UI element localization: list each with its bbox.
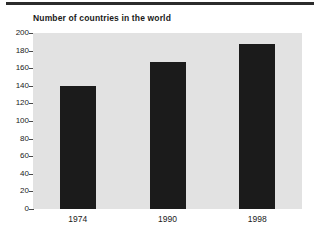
bar <box>150 62 186 209</box>
y-tick-label: 0 <box>3 205 29 213</box>
y-tick-label: 200 <box>3 29 29 37</box>
bar <box>60 86 96 209</box>
bar <box>239 44 275 209</box>
y-tick-label: 40 <box>3 170 29 178</box>
y-tick-label: 180 <box>3 47 29 55</box>
y-tick-label: 80 <box>3 135 29 143</box>
plot-area <box>33 33 302 209</box>
y-tick-label: 60 <box>3 152 29 160</box>
x-tick-label: 1974 <box>68 214 87 224</box>
x-tick-label: 1990 <box>158 214 177 224</box>
top-divider-rule <box>6 2 314 5</box>
y-tick-label: 100 <box>3 117 29 125</box>
bars-layer <box>33 33 302 209</box>
y-tick-label: 140 <box>3 82 29 90</box>
chart-figure: Number of countries in the world 0204060… <box>0 0 320 239</box>
y-tick-label: 160 <box>3 64 29 72</box>
x-tick-label: 1998 <box>248 214 267 224</box>
x-axis-labels: 197419901998 <box>33 214 302 228</box>
y-axis-labels: 020406080100120140160180200 <box>0 33 29 209</box>
y-tick-label: 120 <box>3 99 29 107</box>
y-tick-label: 20 <box>3 187 29 195</box>
chart-title: Number of countries in the world <box>33 13 171 23</box>
y-tick-mark <box>29 209 34 210</box>
